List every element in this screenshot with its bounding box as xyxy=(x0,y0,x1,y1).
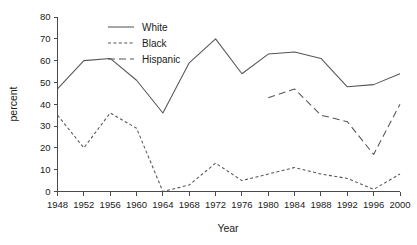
x-axis-title: Year xyxy=(217,222,239,234)
legend-label-white: White xyxy=(142,22,168,33)
y-tick-label: 50 xyxy=(40,77,51,88)
x-tick-label: 1960 xyxy=(126,199,147,210)
y-tick-label: 60 xyxy=(40,55,51,66)
x-tick-label: 1956 xyxy=(100,199,121,210)
line-chart-svg: 01020304050607080 1948195219561960196419… xyxy=(0,0,417,245)
y-tick-label: 40 xyxy=(40,99,51,110)
x-tick-label: 1988 xyxy=(310,199,331,210)
x-tick-label: 2000 xyxy=(389,199,410,210)
y-tick-label: 30 xyxy=(40,120,51,131)
x-tick-label: 1984 xyxy=(284,199,305,210)
x-tick-label: 1948 xyxy=(47,199,68,210)
x-tick-label: 1980 xyxy=(258,199,279,210)
x-tick-label: 1996 xyxy=(363,199,384,210)
x-tick-label: 1992 xyxy=(337,199,358,210)
legend-label-black: Black xyxy=(142,38,167,49)
y-axis-title: percent xyxy=(7,86,19,121)
chart-figure: 01020304050607080 1948195219561960196419… xyxy=(0,0,417,245)
legend-label-hispanic: Hispanic xyxy=(142,54,180,65)
y-tick-label: 70 xyxy=(40,33,51,44)
x-tick-label: 1968 xyxy=(179,199,200,210)
x-tick-label: 1976 xyxy=(231,199,252,210)
y-tick-label: 10 xyxy=(40,164,51,175)
y-tick-label: 80 xyxy=(40,11,51,22)
x-tick-label: 1964 xyxy=(152,199,173,210)
y-tick-label: 20 xyxy=(40,142,51,153)
x-tick-label: 1952 xyxy=(73,199,94,210)
y-tick-label: 0 xyxy=(45,186,50,197)
x-tick-label: 1972 xyxy=(205,199,226,210)
